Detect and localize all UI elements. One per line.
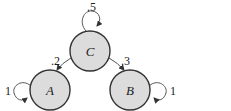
edge-a-a	[14, 83, 31, 100]
node-a-label: A	[45, 83, 54, 98]
node-b: B	[110, 70, 150, 110]
node-a: A	[30, 70, 70, 110]
node-c: C	[70, 31, 110, 71]
edge-label-b-b: 1	[170, 84, 176, 98]
edge-label-c-b: .3	[121, 54, 130, 68]
markov-chain-diagram: .5 .2 .3 1 1 C A B	[0, 0, 231, 111]
node-b-label: B	[126, 83, 134, 98]
node-c-label: C	[86, 44, 95, 59]
edge-label-c-c: .5	[87, 0, 96, 14]
edge-b-b	[149, 83, 166, 100]
edge-label-c-a: .2	[51, 54, 60, 68]
edge-label-a-a: 1	[5, 84, 11, 98]
